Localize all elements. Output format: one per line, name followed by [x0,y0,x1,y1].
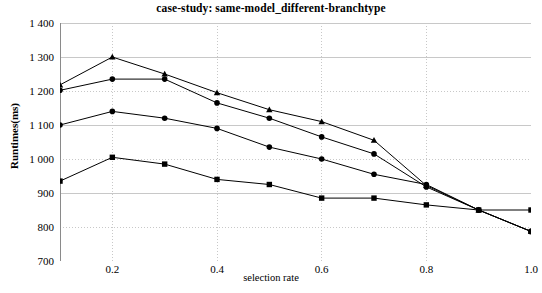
y-tick-label: 1 200 [0,85,54,97]
y-tick-label: 1 000 [0,153,54,165]
data-point-marker [371,172,377,178]
y-axis-label: Runtimes(ms) [8,86,20,186]
data-point-marker [110,76,116,82]
data-point-marker [60,122,63,128]
data-point-marker [60,178,63,183]
data-point-marker [162,76,168,82]
series-series-1 [60,54,531,234]
data-point-marker [110,155,115,160]
data-point-marker [267,182,272,187]
data-point-marker [162,115,168,121]
data-point-marker [319,195,324,200]
data-point-marker [319,156,325,162]
data-point-marker [110,109,116,115]
y-tick-label: 1 300 [0,51,54,63]
x-axis-label: selection rate [0,272,542,283]
chart-figure: case-study: same-model_different-brancht… [0,0,542,293]
data-point-marker [60,88,63,94]
data-point-marker [319,134,325,140]
y-tick-label: 1 100 [0,119,54,131]
data-point-marker [267,115,273,121]
data-point-marker [214,100,220,106]
data-point-marker [424,202,429,207]
y-tick-label: 900 [0,187,54,199]
data-point-marker [214,126,220,132]
data-point-marker [214,177,219,182]
data-point-marker [267,144,273,150]
data-point-marker [476,207,481,212]
y-tick-label: 1 400 [0,17,54,29]
data-point-marker [371,195,376,200]
data-point-marker [528,207,531,212]
series-series-4 [60,155,531,213]
y-tick-label: 700 [0,255,54,267]
y-tick-label: 800 [0,221,54,233]
chart-title: case-study: same-model_different-brancht… [0,2,542,14]
series-line [60,111,531,231]
series-line [60,57,531,231]
data-point-marker [162,161,167,166]
plot-svg [60,23,531,261]
data-point-marker [371,151,377,157]
plot-area [60,23,531,261]
data-point-marker [424,182,430,188]
series-series-2 [60,76,531,234]
